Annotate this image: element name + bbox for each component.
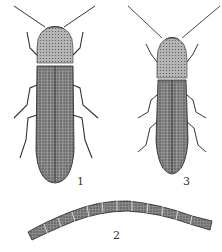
beetle-illustration <box>0 0 222 252</box>
larva-2 <box>28 201 212 240</box>
illustration-figure: 1 3 2 <box>0 0 222 252</box>
beetle-1 <box>14 6 98 183</box>
specimen-label-1: 1 <box>77 175 84 188</box>
specimen-label-2: 2 <box>113 229 120 242</box>
specimen-label-3: 3 <box>183 175 190 188</box>
beetle-3 <box>128 6 220 174</box>
